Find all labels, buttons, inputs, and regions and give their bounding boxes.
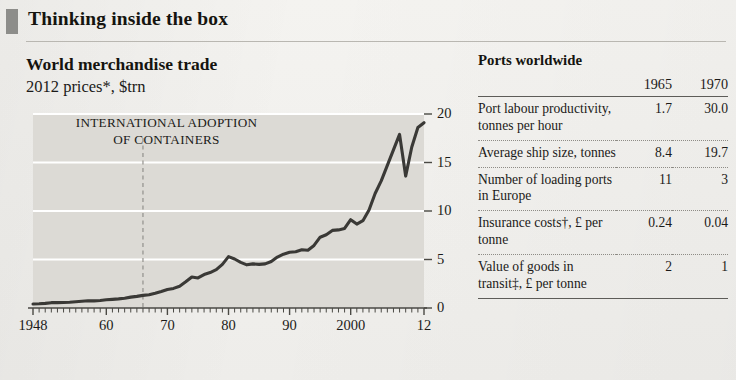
table-cell-1970: 30.0 xyxy=(672,97,728,141)
y-axis-label: 0 xyxy=(437,299,465,316)
annotation-line-2: OF CONTAINERS xyxy=(113,132,220,147)
table-cell-label: Port labour productivity, tonnes per hou… xyxy=(478,97,616,141)
table-title: Ports worldwide xyxy=(478,52,728,69)
table-row: Number of loading ports in Europe113 xyxy=(478,167,728,211)
table-cell-1965: 0.24 xyxy=(616,211,672,255)
table-cell-label: Number of loading ports in Europe xyxy=(478,167,616,211)
table-header-blank xyxy=(478,76,616,97)
chart-svg xyxy=(0,0,470,350)
x-axis-label: 80 xyxy=(199,317,259,334)
x-axis-label: 60 xyxy=(76,317,136,334)
table-head: 1965 1970 xyxy=(478,76,728,97)
x-axis-label: 2000 xyxy=(321,317,381,334)
y-axis-label: 5 xyxy=(437,251,465,268)
table-cell-1970: 0.04 xyxy=(672,211,728,255)
table-row: Average ship size, tonnes8.419.7 xyxy=(478,140,728,167)
table-cell-1970: 1 xyxy=(672,254,728,298)
table-cell-label: Value of goods in transit‡, £ per tonne xyxy=(478,254,616,298)
table-row: Port labour productivity, tonnes per hou… xyxy=(478,97,728,141)
chart-figure: INTERNATIONAL ADOPTION OF CONTAINERS 051… xyxy=(0,0,470,350)
table-header-1970: 1970 xyxy=(672,76,728,97)
table-row: Value of goods in transit‡, £ per tonne2… xyxy=(478,254,728,298)
table-cell-1965: 2 xyxy=(616,254,672,298)
table-cell-1970: 3 xyxy=(672,167,728,211)
table-row: Insurance costs†, £ per tonne0.240.04 xyxy=(478,211,728,255)
ports-table: 1965 1970 Port labour productivity, tonn… xyxy=(478,76,728,299)
y-axis-label: 20 xyxy=(437,105,465,122)
table-cell-1965: 8.4 xyxy=(616,140,672,167)
x-axis-label: 1948 xyxy=(3,317,63,334)
table-cell-label: Insurance costs†, £ per tonne xyxy=(478,211,616,255)
table-cell-label: Average ship size, tonnes xyxy=(478,140,616,167)
y-axis-label: 15 xyxy=(437,154,465,171)
y-axis-label: 10 xyxy=(437,202,465,219)
x-axis-label: 90 xyxy=(260,317,320,334)
table-body: Port labour productivity, tonnes per hou… xyxy=(478,97,728,299)
chart-annotation: INTERNATIONAL ADOPTION OF CONTAINERS xyxy=(34,114,299,149)
table-header-1965: 1965 xyxy=(616,76,672,97)
table-cell-1965: 11 xyxy=(616,167,672,211)
x-axis-label: 70 xyxy=(137,317,197,334)
ports-table-panel: Ports worldwide 1965 1970 Port labour pr… xyxy=(478,52,728,299)
table-header-row: 1965 1970 xyxy=(478,76,728,97)
x-axis-label: 12 xyxy=(394,317,454,334)
table-cell-1970: 19.7 xyxy=(672,140,728,167)
annotation-line-1: INTERNATIONAL ADOPTION xyxy=(76,115,258,130)
table-cell-1965: 1.7 xyxy=(616,97,672,141)
